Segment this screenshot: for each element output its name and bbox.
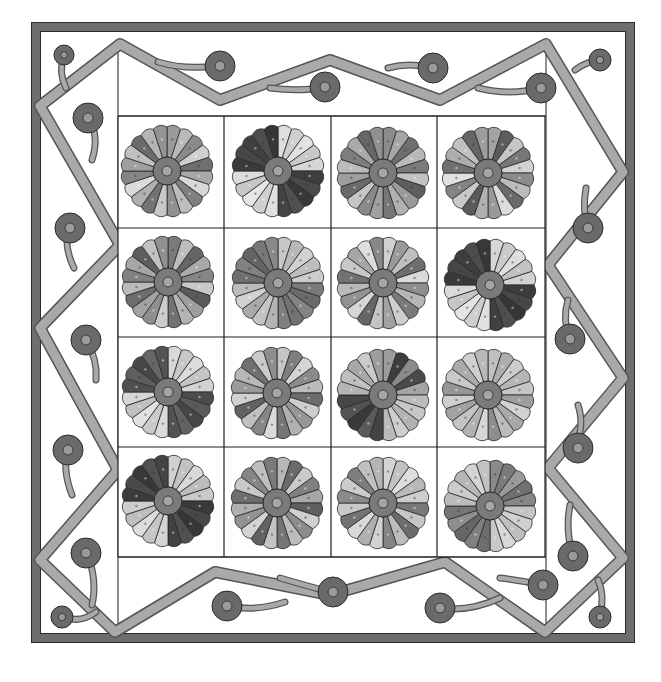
petal-print-dot [272,138,274,140]
petal-print-dot [410,379,412,381]
petal-print-dot [377,313,379,315]
petal-print-dot [457,279,459,281]
petal-print-dot [245,287,247,289]
petal-print-dot [138,485,140,487]
petal-print-dot [464,371,466,373]
petal-print-dot [410,186,412,188]
plate-center-button [163,277,173,287]
petal-print-dot [404,194,406,196]
dresden-plate [444,239,536,331]
petal-print-dot [501,143,503,145]
petal-print-dot [367,530,369,532]
petal-print-dot [359,194,361,196]
petal-print-dot [404,416,406,418]
petal-print-dot [484,536,486,538]
berry-center [596,613,603,620]
petal-print-dot [367,473,369,475]
petal-print-dot [144,413,146,415]
petal-print-dot [474,476,476,478]
plate-center-button [378,278,388,288]
petal-print-dot [181,252,183,254]
petal-print-dot [387,250,389,252]
petal-print-dot [494,252,496,254]
petal-print-dot [181,471,183,473]
petal-print-dot [134,175,136,177]
petal-print-dot [484,252,486,254]
petal-print-dot [520,289,522,291]
petal-print-dot [248,296,250,298]
petal-print-dot [387,362,389,364]
petal-print-dot [455,389,457,391]
petal-print-dot [472,200,474,202]
dresden-plate [121,125,213,217]
petal-print-dot [457,289,459,291]
petal-print-dot [253,479,255,481]
dresden-plate [337,127,429,219]
plate-center-button [378,498,388,508]
petal-print-dot [492,362,494,364]
petal-print-dot [138,295,140,297]
petal-print-dot [457,510,459,512]
petal-print-dot [350,277,352,279]
petal-print-dot [181,362,183,364]
petal-print-dot [307,497,309,499]
petal-print-dot [413,497,415,499]
petal-print-dot [457,500,459,502]
dresden-plate [337,237,429,329]
petal-print-dot [194,184,196,186]
petal-print-dot [515,186,517,188]
petal-print-dot [244,507,246,509]
petal-print-dot [404,371,406,373]
petal-print-dot [172,249,174,251]
petal-print-dot [135,495,137,497]
petal-print-dot [247,406,249,408]
petal-print-dot [350,177,352,179]
petal-print-dot [281,533,283,535]
petal-print-dot [247,516,249,518]
petal-print-dot [492,140,494,142]
petal-print-dot [298,524,300,526]
petal-print-dot [396,530,398,532]
petal-print-dot [359,259,361,261]
petal-print-dot [161,138,163,140]
petal-print-dot [307,397,309,399]
petal-print-dot [387,140,389,142]
petal-print-dot [138,376,140,378]
petal-print-dot [308,287,310,289]
petal-print-dot [307,387,309,389]
petal-print-dot [482,362,484,364]
petal-print-dot [472,422,474,424]
petal-print-dot [144,368,146,370]
petal-print-dot [377,203,379,205]
petal-print-dot [161,201,163,203]
petal-print-dot [271,360,273,362]
petal-print-dot [494,315,496,317]
petal-print-dot [262,198,264,200]
petal-print-dot [396,200,398,202]
dresden-plate [231,457,323,549]
petal-print-dot [261,420,263,422]
petal-print-dot [501,422,503,424]
berry-center [435,603,445,613]
petal-print-dot [413,277,415,279]
petal-print-dot [518,167,520,169]
petal-print-dot [180,198,182,200]
petal-print-dot [482,140,484,142]
petal-print-dot [484,473,486,475]
berry-center [328,587,338,597]
petal-print-dot [195,514,197,516]
dresden-plate [122,455,214,547]
berry-center [215,61,225,71]
petal-print-dot [181,419,183,421]
petal-print-dot [188,192,190,194]
petal-print-dot [387,203,389,205]
petal-print-dot [308,277,310,279]
petal-print-dot [404,304,406,306]
petal-print-dot [195,405,197,407]
petal-print-dot [474,312,476,314]
petal-print-dot [359,479,361,481]
petal-print-dot [180,141,182,143]
petal-print-dot [304,487,306,489]
petal-print-dot [396,473,398,475]
plate-center-button [273,278,283,288]
